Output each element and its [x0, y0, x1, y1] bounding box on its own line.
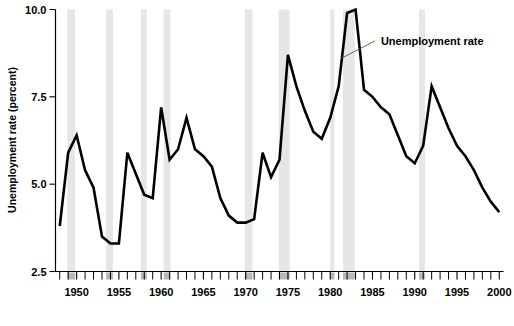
y-axis-ticks-group: 2.55.07.510.0 [25, 4, 55, 278]
x-axis-tick-label: 1980 [318, 286, 342, 298]
recession-band [343, 10, 355, 272]
recession-band [330, 10, 334, 272]
recession-band-axis-mark [330, 273, 334, 280]
x-axis-tick-label: 1960 [149, 286, 173, 298]
x-axis-tick-label: 1950 [64, 286, 88, 298]
x-axis-tick-label: 1990 [403, 286, 427, 298]
y-axis-tick-label: 5.0 [31, 178, 46, 190]
recession-band [141, 10, 147, 272]
recession-band-axis-mark [419, 273, 425, 280]
y-axis-label: Unemployment rate (percent) [6, 67, 18, 213]
x-axis-tick-label: 1985 [360, 286, 384, 298]
x-axis-tick-label: 1995 [445, 286, 469, 298]
annotation-label-unemployment-rate: Unemployment rate [381, 35, 484, 47]
chart-canvas: 2.55.07.510.0 19501955196019651970197519… [0, 0, 514, 326]
recession-band-axis-mark [343, 273, 355, 280]
y-axis-tick-label: 10.0 [25, 4, 46, 16]
y-axis-tick-label: 7.5 [31, 91, 46, 103]
x-axis-tick-label: 1955 [107, 286, 131, 298]
x-axis-tick-label: 1975 [276, 286, 300, 298]
y-axis-tick-label: 2.5 [31, 266, 46, 278]
recession-band-axis-mark [106, 273, 113, 280]
recession-band [245, 10, 253, 272]
x-axis-tick-label: 1965 [191, 286, 215, 298]
x-axis-tick-label: 2000 [487, 286, 511, 298]
x-axis-tick-label: 1970 [233, 286, 257, 298]
unemployment-rate-chart-figure: 2.55.07.510.0 19501955196019651970197519… [0, 0, 514, 326]
recession-band [106, 10, 113, 272]
